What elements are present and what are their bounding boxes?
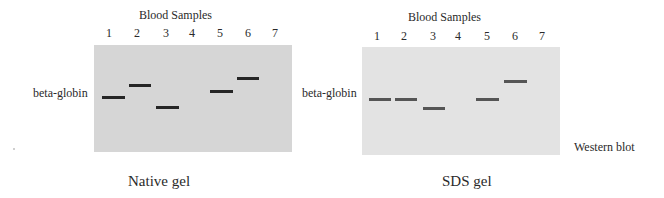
native-band-lane-5 <box>210 90 233 93</box>
native-band-lane-3 <box>156 106 179 109</box>
native-band-lane-1 <box>102 96 125 99</box>
native-gel-header: Blood Samples <box>139 8 212 23</box>
native-lane-2-label: 2 <box>130 26 144 41</box>
native-lane-6-label: 6 <box>241 26 255 41</box>
stray-dot <box>13 148 15 150</box>
sds-band-lane-6 <box>504 80 527 83</box>
native-band-lane-2 <box>129 84 151 87</box>
western-blot-label: Western blot <box>574 140 635 155</box>
sds-lane-7-label: 7 <box>535 29 549 44</box>
sds-lane-1-label: 1 <box>370 29 384 44</box>
sds-gel-header: Blood Samples <box>408 10 481 25</box>
sds-band-lane-5 <box>476 98 499 101</box>
native-lane-3-label: 3 <box>159 26 173 41</box>
native-lane-4-label: 4 <box>185 26 199 41</box>
sds-lane-5-label: 5 <box>480 29 494 44</box>
native-lane-1-label: 1 <box>102 26 116 41</box>
native-beta-globin-label: beta-globin <box>33 86 88 101</box>
native-gel-caption: Native gel <box>128 173 190 190</box>
native-lane-7-label: 7 <box>268 26 282 41</box>
sds-band-lane-2 <box>395 98 417 101</box>
sds-gel-image <box>362 47 560 155</box>
sds-lane-4-label: 4 <box>451 29 465 44</box>
sds-lane-2-label: 2 <box>397 29 411 44</box>
sds-lane-3-label: 3 <box>426 29 440 44</box>
native-gel-image <box>94 45 292 152</box>
sds-lane-6-label: 6 <box>508 29 522 44</box>
sds-band-lane-3 <box>423 107 445 110</box>
sds-gel-caption: SDS gel <box>442 173 492 190</box>
native-band-lane-6 <box>237 77 259 80</box>
sds-beta-globin-label: beta-globin <box>302 86 357 101</box>
sds-band-lane-1 <box>369 98 391 101</box>
native-lane-5-label: 5 <box>213 26 227 41</box>
